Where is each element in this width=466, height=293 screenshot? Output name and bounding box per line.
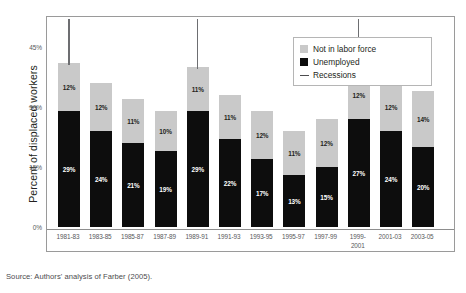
bar-segment-label: 20% [412,184,434,191]
bar-segment-label: 15% [316,194,338,201]
bar-segment-not-in-labor-force: 14% [412,91,434,147]
bar-segment-label: 10% [155,128,177,135]
bar-segment-label: 19% [155,186,177,193]
bar-segment-label: 12% [90,104,112,111]
bar-segment-label: 11% [187,86,209,93]
bar-segment-label: 24% [90,176,112,183]
bar-group: 14%20% [412,91,434,227]
bar-segment-unemployed: 20% [412,147,434,227]
legend-label: Unemployed [313,57,360,67]
bar-segment-label: 13% [283,198,305,205]
x-axis-tick-label: 2003-05 [394,233,450,242]
bar-segment-unemployed: 19% [155,151,177,227]
bar-segment-not-in-labor-force: 12% [90,83,112,131]
bar-segment-label: 22% [219,180,241,187]
bar-segment-not-in-labor-force: 11% [187,67,209,111]
bar-segment-not-in-labor-force: 11% [219,95,241,139]
bar-segment-unemployed: 24% [90,131,112,227]
bar-segment-label: 29% [58,166,80,173]
legend-item-recessions: Recessions [300,68,425,81]
bar-group: 12%27% [348,71,370,227]
recession-marker-line [68,19,69,65]
gray-square-icon [300,45,308,53]
plot-frame: 12%29%12%24%11%21%10%19%11%29%11%22%12%1… [46,16,455,252]
y-axis-tick-label: 0% [20,224,42,231]
legend-label: Recessions [313,70,356,80]
chart-legend: Not in labor force Unemployed Recessions [293,37,432,86]
bar-segment-label: 29% [187,166,209,173]
bar-segment-label: 11% [219,114,241,121]
bar-segment-label: 12% [380,104,402,111]
bar-group: 11%29% [187,67,209,227]
bar-segment-unemployed: 15% [316,167,338,227]
bar-segment-not-in-labor-force: 12% [380,83,402,131]
chart-figure: Percent of displaced workers 0%15%30%45%… [0,0,466,293]
bar-segment-not-in-labor-force: 12% [316,119,338,167]
legend-item-unemployed: Unemployed [300,55,425,68]
bar-group: 12%17% [251,111,273,227]
legend-label: Not in labor force [313,44,376,54]
bar-segment-unemployed: 22% [219,139,241,227]
bar-segment-label: 21% [122,182,144,189]
bar-segment-unemployed: 29% [187,111,209,227]
source-note: Source: Authors' analysis of Farber (200… [6,272,152,281]
legend-item-not-in-labor-force: Not in labor force [300,42,425,55]
bar-group: 12%24% [90,83,112,227]
bar-segment-label: 11% [122,118,144,125]
y-axis-title: Percent of displaced workers [27,24,39,244]
y-axis-tick-label: 15% [20,164,42,171]
bar-segment-label: 17% [251,190,273,197]
bar-segment-unemployed: 29% [58,111,80,227]
bar-group: 10%19% [155,111,177,227]
bar-segment-not-in-labor-force: 11% [283,131,305,175]
bar-segment-label: 12% [348,92,370,99]
line-marker-icon [300,71,308,79]
bar-segment-label: 12% [58,84,80,91]
bar-segment-unemployed: 24% [380,131,402,227]
bar-segment-unemployed: 21% [122,143,144,227]
bar-segment-not-in-labor-force: 12% [58,63,80,111]
recession-marker-line [197,19,198,69]
bar-segment-not-in-labor-force: 10% [155,111,177,151]
bar-group: 12%15% [316,119,338,227]
bar-segment-label: 24% [380,176,402,183]
bar-segment-label: 12% [316,140,338,147]
bar-segment-unemployed: 17% [251,159,273,227]
bar-group: 11%21% [122,99,144,227]
bar-segment-unemployed: 27% [348,119,370,227]
black-square-icon [300,58,308,66]
bar-segment-label: 11% [283,150,305,157]
bar-segment-not-in-labor-force: 12% [251,111,273,159]
bar-group: 11%22% [219,95,241,227]
bar-segment-label: 27% [348,170,370,177]
bar-group: 11%13% [283,131,305,227]
bar-segment-not-in-labor-force: 11% [122,99,144,143]
bar-segment-unemployed: 13% [283,175,305,227]
y-axis-tick-label: 45% [20,44,42,51]
bar-group: 12%24% [380,83,402,227]
bar-group: 12%29% [58,63,80,227]
bar-segment-label: 12% [251,132,273,139]
y-axis-tick-label: 30% [20,104,42,111]
bar-segment-label: 14% [412,116,434,123]
